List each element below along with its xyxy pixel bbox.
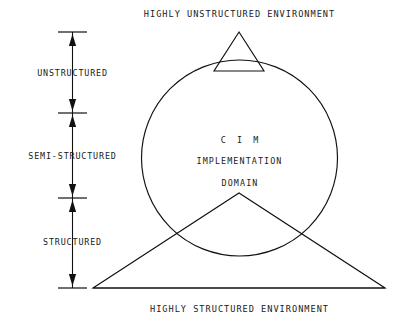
arrow-up-icon-top [69,34,76,46]
band-label-semi-structured: SEMI-STRUCTURED [28,151,116,161]
arrow-down-icon-upper-band [69,99,76,111]
band-label-unstructured: UNSTRUCTURED [37,68,108,78]
top-environment-label: HIGHLY UNSTRUCTURED ENVIRONMENT [144,9,335,19]
arrow-down-icon-middle-band [69,184,76,196]
unstructured-apex-triangle [214,32,264,71]
bottom-environment-label: HIGHLY STRUCTURED ENVIRONMENT [150,304,329,314]
diagram-root: UNSTRUCTURED SEMI-STRUCTURED STRUCTURED … [0,0,401,321]
core-label-line-2: IMPLEMENTATION [197,156,283,166]
band-label-structured: STRUCTURED [43,237,102,247]
core-label-line-1: C I M [221,135,262,145]
arrow-up-icon-lower-band [69,200,76,212]
arrow-up-icon-middle-band [69,115,76,127]
core-label-line-3: DOMAIN [222,178,259,188]
structured-triangle [93,193,385,288]
arrow-down-icon-bottom [69,274,76,286]
diagram-canvas: UNSTRUCTURED SEMI-STRUCTURED STRUCTURED … [0,0,401,321]
